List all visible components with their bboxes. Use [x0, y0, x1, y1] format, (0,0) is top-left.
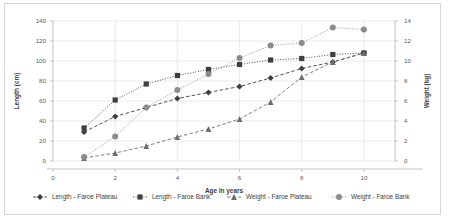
y-right-tick-label: 4: [404, 117, 408, 124]
data-series-layer: [81, 25, 367, 161]
circle-marker: [336, 194, 342, 200]
data-point-marker: [299, 56, 304, 61]
y-right-tick-label: 14: [404, 17, 411, 24]
axis-lines: [47, 21, 423, 169]
data-point-marker: [175, 73, 180, 78]
x-tick-label: 6: [238, 174, 242, 181]
y-right-tick-label: 0: [404, 157, 408, 164]
x-tick-labels: 0246810: [51, 169, 368, 181]
series-0: [81, 50, 367, 135]
data-point-marker: [174, 87, 180, 93]
series-line: [84, 53, 364, 158]
data-point-marker: [268, 75, 274, 81]
data-point-marker: [112, 113, 118, 119]
chart-legend: Length - Faroe PlateauLength - Faroe Ban…: [33, 193, 410, 201]
line-chart: 020406080100120140 02468101214 0246810 L…: [5, 4, 442, 216]
data-point-marker: [205, 71, 211, 77]
x-tick-label: 4: [176, 174, 180, 181]
data-point-marker: [237, 55, 243, 61]
legend-item-0[interactable]: Length - Faroe Plateau: [33, 193, 118, 201]
data-point-marker: [268, 99, 274, 105]
legend-label: Length - Faroe Bank: [152, 193, 211, 201]
data-point-marker: [143, 143, 149, 149]
y-left-tick-label: 100: [36, 57, 47, 64]
x-tick-label: 2: [113, 174, 117, 181]
y-left-tick-labels: 020406080100120140: [36, 17, 53, 164]
data-point-marker: [113, 97, 118, 102]
y-left-tick-label: 0: [43, 157, 47, 164]
axis-titles: Length (cm)Weight (kg)Age in years: [13, 73, 431, 195]
data-point-marker: [330, 52, 335, 57]
data-point-marker: [174, 134, 180, 140]
y-left-tick-label: 80: [39, 77, 46, 84]
data-point-marker: [299, 65, 305, 71]
legend-label: Length - Faroe Plateau: [52, 193, 118, 201]
gridlines: [53, 21, 395, 161]
y-left-tick-label: 60: [39, 97, 46, 104]
data-point-marker: [237, 116, 243, 122]
data-point-marker: [299, 74, 305, 80]
data-point-marker: [143, 105, 149, 111]
series-line: [84, 53, 364, 132]
data-point-marker: [205, 89, 211, 95]
data-point-marker: [206, 126, 212, 132]
vertical-gridlines: [115, 21, 364, 161]
legend-item-1[interactable]: Length - Faroe Bank: [133, 193, 211, 201]
y-right-tick-label: 8: [404, 77, 408, 84]
data-point-marker: [330, 25, 336, 31]
chart-container: 020406080100120140 02468101214 0246810 L…: [4, 3, 441, 215]
y-right-tick-label: 2: [404, 137, 408, 144]
series-3: [81, 25, 367, 161]
data-point-marker: [81, 154, 87, 160]
y-left-tick-label: 140: [36, 17, 47, 24]
data-point-marker: [237, 62, 242, 67]
data-point-marker: [361, 27, 367, 33]
y-right-tick-label: 6: [404, 97, 408, 104]
legend-item-3[interactable]: Weight - Faroe Bank: [332, 193, 410, 201]
legend-label: Weight - Faroe Plateau: [246, 193, 312, 201]
diamond-marker: [37, 194, 43, 200]
data-point-marker: [236, 83, 242, 89]
y-left-tick-label: 40: [39, 117, 46, 124]
data-point-marker: [81, 125, 86, 130]
y-left-tick-label: 20: [39, 137, 46, 144]
x-tick-label: 8: [300, 174, 304, 181]
x-tick-label: 10: [360, 174, 367, 181]
legend-label: Weight - Faroe Bank: [351, 193, 410, 201]
y-right-tick-label: 12: [404, 37, 411, 44]
series-line: [84, 28, 364, 158]
x-axis-title: Age in years: [205, 187, 243, 195]
data-point-marker: [268, 43, 274, 49]
data-point-marker: [112, 134, 118, 140]
y-left-tick-label: 120: [36, 37, 47, 44]
data-point-marker: [299, 40, 305, 46]
y-right-tick-labels: 02468101214: [395, 17, 411, 164]
y-right-axis-title: Weight (kg): [423, 74, 431, 109]
square-marker: [137, 194, 142, 199]
legend-item-2[interactable]: Weight - Faroe Plateau: [227, 193, 312, 201]
y-left-axis-title: Length (cm): [13, 73, 21, 110]
y-right-tick-label: 10: [404, 57, 411, 64]
series-1: [81, 50, 366, 130]
data-point-marker: [144, 81, 149, 86]
x-tick-label: 0: [51, 174, 55, 181]
data-point-marker: [268, 57, 273, 62]
